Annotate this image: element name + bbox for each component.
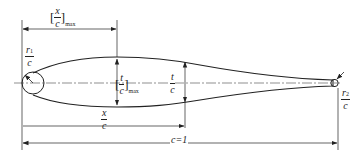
leading-edge-radius-arrow	[25, 75, 33, 83]
t-c-den: c	[170, 84, 174, 95]
t-c-max-sub: max	[128, 88, 138, 94]
r1-den: c	[27, 57, 31, 68]
x-c-max-den: c	[55, 18, 59, 29]
label-r2-c: r2c	[341, 88, 350, 111]
r2-den: c	[343, 100, 347, 111]
label-t-c: tc	[170, 72, 175, 95]
x-c-max-sub: max	[65, 21, 75, 27]
label-chord: c=1	[170, 135, 188, 145]
airfoil-outline	[33, 57, 333, 107]
x-c-num: x	[101, 108, 107, 120]
label-x-c: xc	[101, 108, 107, 131]
x-c-den: c	[102, 120, 106, 131]
label-r1-c: r1c	[25, 45, 34, 68]
t-c-num: t	[170, 72, 175, 84]
label-t-c-max: [ tc ]max	[115, 73, 139, 96]
r2-num-sub: 2	[346, 91, 349, 97]
r1-num-sub: 1	[30, 48, 33, 54]
label-x-c-max: [ xc ]max	[50, 6, 75, 29]
airfoil-diagram: [ xc ]max r1c [ tc ]max tc xc c=1 r2c	[0, 0, 361, 155]
trailing-edge-radius-arrow	[337, 72, 344, 79]
